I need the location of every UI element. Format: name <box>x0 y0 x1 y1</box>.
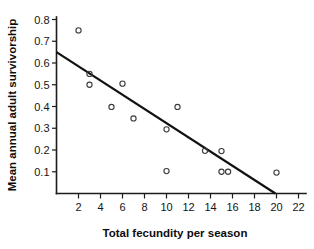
y-tick-label: 0.2 <box>34 144 49 156</box>
data-point <box>164 127 169 132</box>
y-tick-label: 0.7 <box>34 35 49 47</box>
data-point <box>120 81 125 86</box>
data-point <box>109 104 114 109</box>
x-tick-label: 22 <box>292 201 304 213</box>
x-axis-title: Total fecundity per season <box>103 227 248 239</box>
x-tick-label: 18 <box>248 201 260 213</box>
data-point <box>164 168 169 173</box>
x-axis-ticks: 246810121416182022 <box>75 194 304 213</box>
data-points-group <box>76 28 279 175</box>
x-tick-label: 10 <box>160 201 172 213</box>
y-tick-label: 0.6 <box>34 57 49 69</box>
data-point <box>219 169 224 174</box>
x-tick-label: 20 <box>270 201 282 213</box>
data-point <box>226 169 231 174</box>
y-axis-title: Mean annual adult survivorship <box>6 19 18 192</box>
y-tick-label: 0.1 <box>34 166 49 178</box>
data-point <box>175 104 180 109</box>
data-point <box>274 170 279 175</box>
x-tick-label: 16 <box>226 201 238 213</box>
data-point <box>76 28 81 33</box>
x-tick-label: 6 <box>119 201 125 213</box>
x-tick-label: 4 <box>97 201 103 213</box>
y-axis-ticks: 0.10.20.30.40.50.60.70.8 <box>34 14 56 178</box>
scatter-plot-figure: 0.10.20.30.40.50.60.70.8 246810121416182… <box>0 0 314 249</box>
x-tick-label: 8 <box>141 201 147 213</box>
y-tick-label: 0.4 <box>34 101 49 113</box>
x-tick-label: 14 <box>204 201 216 213</box>
x-tick-label: 12 <box>182 201 194 213</box>
plot-canvas: 0.10.20.30.40.50.60.70.8 246810121416182… <box>0 0 314 249</box>
y-tick-label: 0.5 <box>34 79 49 91</box>
data-point <box>219 148 224 153</box>
data-point <box>87 82 92 87</box>
data-point <box>131 116 136 121</box>
y-tick-label: 0.3 <box>34 122 49 134</box>
regression-line <box>57 52 276 193</box>
y-tick-label: 0.8 <box>34 14 49 26</box>
x-tick-label: 2 <box>75 201 81 213</box>
regression-line-group <box>57 52 276 193</box>
